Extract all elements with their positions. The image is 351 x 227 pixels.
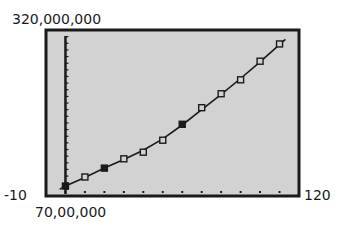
data-point-marker: [179, 121, 185, 127]
data-point-marker: [199, 105, 205, 111]
data-point-marker: [277, 41, 283, 47]
calculator-graph-screen: [0, 0, 351, 227]
data-point-marker: [140, 149, 146, 155]
data-point-marker: [62, 183, 68, 189]
data-point-marker: [160, 137, 166, 143]
data-point-marker: [101, 165, 107, 171]
data-point-marker: [218, 91, 224, 97]
data-point-marker: [82, 174, 88, 180]
data-point-marker: [121, 156, 127, 162]
data-point-marker: [238, 77, 244, 83]
screen-background: [46, 30, 299, 196]
data-point-marker: [257, 58, 263, 64]
